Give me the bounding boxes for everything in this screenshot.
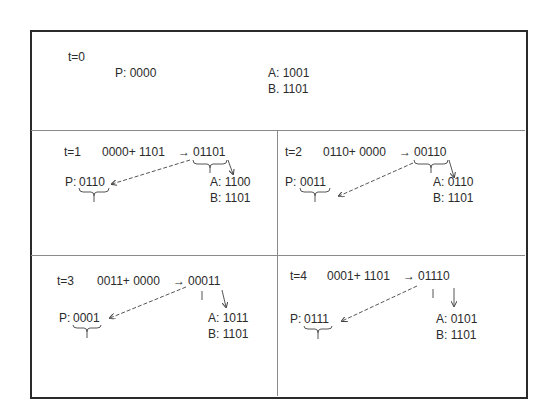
t2-a-register: A: 0110: [433, 175, 473, 189]
t1-b-register: B: 1101: [210, 191, 250, 205]
t4-a-register: A: 0101: [436, 312, 477, 326]
t0-a-register: A: 1001: [268, 66, 309, 80]
t2-b-register: B: 1101: [433, 191, 473, 205]
t2-expression: 0110+ 0000: [323, 145, 386, 159]
t1-p-value: 0110: [79, 175, 105, 189]
t3-expression: 0011+ 0000: [97, 274, 160, 288]
divider-vertical: [277, 130, 278, 396]
t4-p-value: 0111: [304, 312, 329, 326]
t0-label: t=0: [68, 50, 85, 64]
t2-arrow-icon: →: [399, 145, 411, 159]
t3-b-register: B: 1101: [208, 327, 248, 341]
t1-label: t=1: [64, 145, 81, 159]
t1-expression: 0000+ 1101: [102, 145, 165, 159]
t3-a-register: A: 1011: [208, 311, 248, 325]
t0-b-register: B. 1101: [268, 82, 308, 96]
t0-p-register: P: 0000: [115, 66, 156, 80]
divider-middle: [31, 255, 525, 256]
t1-result: 01101: [193, 145, 225, 159]
t3-p-value: 0001: [73, 311, 100, 325]
t4-expression: 0001+ 1101: [327, 269, 390, 283]
t4-b-register: B: 1101: [436, 328, 476, 342]
t1-a-register: A: 1100: [210, 175, 250, 189]
t4-p-prefix: P:: [290, 312, 301, 326]
t1-p-prefix: P:: [65, 175, 76, 189]
t4-arrow-icon: →: [403, 269, 415, 283]
t4-label: t=4: [290, 269, 307, 283]
t3-arrow-icon: →: [173, 274, 185, 288]
t4-result: 01110: [418, 269, 450, 283]
t3-result: 00011: [188, 274, 220, 288]
divider-top: [31, 130, 525, 131]
t2-result: 00110: [414, 145, 446, 159]
t3-p-prefix: P:: [59, 311, 70, 325]
t3-label: t=3: [57, 274, 74, 288]
t2-p-prefix: P:: [285, 175, 296, 189]
t2-label: t=2: [285, 145, 302, 159]
t1-arrow-icon: →: [178, 145, 190, 159]
t2-p-value: 0011: [300, 175, 326, 189]
